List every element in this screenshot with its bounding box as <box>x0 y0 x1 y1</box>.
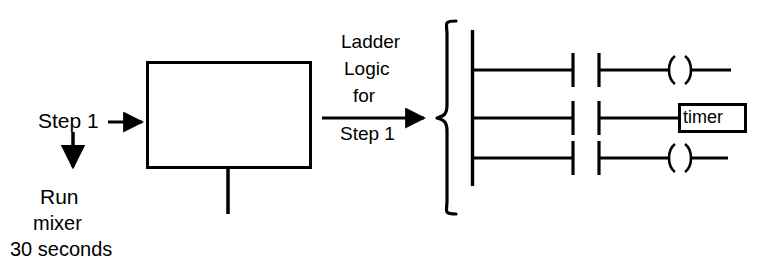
rung-1-coil-right-paren <box>685 56 691 84</box>
transition-label-line-4: Step 1 <box>340 124 395 143</box>
rung-3-coil-right-paren <box>685 144 691 172</box>
timer-box-label: timer <box>683 108 723 126</box>
rung-1-coil-left-paren <box>669 56 675 84</box>
diagram-canvas: Step 1 Run mixer 30 seconds Ladder Logic… <box>0 0 759 274</box>
ladder-rung-1 <box>472 53 731 87</box>
ladder-rung-3 <box>472 141 728 175</box>
rung-3-coil-left-paren <box>669 144 675 172</box>
transition-label-line-3: for <box>353 86 375 105</box>
step-input-label: Step 1 <box>38 110 99 131</box>
transition-label-line-1: Ladder <box>341 32 400 51</box>
step-block-rect <box>148 63 311 168</box>
transition-label-line-2: Logic <box>344 59 389 78</box>
step-action-line-3: 30 seconds <box>10 239 112 259</box>
step-action-line-1: Run <box>40 186 79 207</box>
ladder-group-brace <box>437 21 456 214</box>
step-action-line-2: mixer <box>33 213 82 233</box>
